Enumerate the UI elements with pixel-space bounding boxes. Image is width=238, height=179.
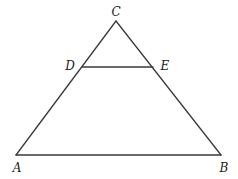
triangle-diagram: A B C D E bbox=[0, 0, 238, 179]
label-b: B bbox=[219, 161, 229, 175]
label-c: C bbox=[111, 5, 120, 19]
segment-bc bbox=[116, 21, 221, 155]
label-e: E bbox=[160, 59, 170, 73]
label-a: A bbox=[12, 161, 22, 175]
segments bbox=[16, 21, 221, 155]
vertex-labels: A B C D E bbox=[12, 5, 229, 175]
label-d: D bbox=[64, 59, 75, 73]
segment-ac bbox=[16, 21, 116, 155]
